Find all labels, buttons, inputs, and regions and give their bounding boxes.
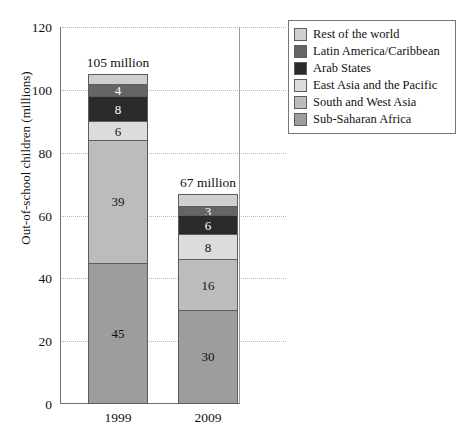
y-axis-tick-label: 0 [0, 397, 52, 413]
legend-item[interactable]: South and West Asia [294, 94, 449, 111]
legend-item[interactable]: Latin America/Caribbean [294, 43, 449, 60]
legend-item-label: East Asia and the Pacific [313, 79, 437, 92]
y-axis-tick-label: 80 [0, 146, 52, 162]
bar-2009[interactable]: 3681630 [178, 194, 238, 404]
bar-segment[interactable]: 16 [178, 259, 238, 309]
y-axis-tick-label: 40 [0, 271, 52, 287]
bar-segment[interactable]: 8 [178, 234, 238, 259]
bar-total-label: 67 million [148, 175, 268, 191]
legend-item[interactable]: Arab States [294, 60, 449, 77]
legend-item-label: Rest of the world [313, 28, 399, 41]
legend: Rest of the worldLatin America/Caribbean… [288, 20, 456, 134]
y-axis-tick-label: 20 [0, 334, 52, 350]
y-axis-tick-label: 120 [0, 20, 52, 36]
legend-item-label: South and West Asia [313, 96, 416, 109]
bar-segment[interactable] [178, 194, 238, 207]
x-axis-tick-label: 2009 [148, 410, 268, 426]
legend-swatch-icon [294, 113, 307, 126]
bar-segment[interactable]: 6 [178, 215, 238, 234]
bar-segment[interactable]: 4 [88, 84, 148, 97]
legend-item[interactable]: Sub-Saharan Africa [294, 111, 449, 128]
legend-swatch-icon [294, 28, 307, 41]
bar-total-label: 105 million [58, 55, 178, 71]
legend-swatch-icon [294, 79, 307, 92]
bar-segment[interactable]: 8 [88, 96, 148, 121]
y-axis-tick-label: 60 [0, 209, 52, 225]
stacked-bar-chart: Out-of-school children (millions) 020406… [0, 0, 469, 440]
legend-swatch-icon [294, 45, 307, 58]
legend-item[interactable]: Rest of the world [294, 26, 449, 43]
legend-item[interactable]: East Asia and the Pacific [294, 77, 449, 94]
legend-swatch-icon [294, 62, 307, 75]
bar-segment[interactable]: 45 [88, 263, 148, 404]
bar-segment[interactable]: 30 [178, 310, 238, 404]
bar-segment[interactable]: 39 [88, 140, 148, 263]
y-axis-tick-label: 100 [0, 83, 52, 99]
bar-segment[interactable]: 6 [88, 121, 148, 140]
bar-segment[interactable] [88, 74, 148, 83]
bar-segment[interactable]: 3 [178, 206, 238, 215]
bar-1999[interactable]: 4863945 [88, 74, 148, 404]
legend-item-label: Sub-Saharan Africa [313, 113, 411, 126]
legend-item-label: Latin America/Caribbean [313, 45, 440, 58]
legend-swatch-icon [294, 96, 307, 109]
legend-item-label: Arab States [313, 62, 371, 75]
